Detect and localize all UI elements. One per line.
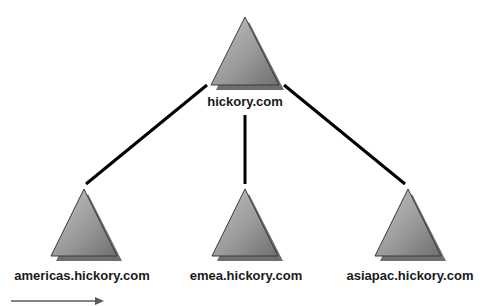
- domain-tree-diagram: hickory.comamericas.hickory.comemea.hick…: [0, 0, 490, 306]
- americas-domain-node: americas.hickory.com: [14, 189, 150, 283]
- asiapac-domain-node-label: asiapac.hickory.com: [347, 268, 474, 283]
- root-domain-node: hickory.com: [207, 17, 284, 109]
- domain-triangle-icon: [211, 17, 279, 85]
- americas-domain-node-label: americas.hickory.com: [14, 268, 150, 283]
- asiapac-domain-node: asiapac.hickory.com: [347, 189, 474, 283]
- arrow-head-icon: [95, 297, 104, 305]
- diagram-svg: hickory.comamericas.hickory.comemea.hick…: [0, 0, 490, 306]
- domain-triangle-icon: [375, 189, 441, 256]
- domain-triangle-icon: [212, 189, 278, 256]
- root-domain-node-label: hickory.com: [207, 94, 283, 109]
- domain-triangle-icon: [51, 189, 117, 256]
- emea-domain-node: emea.hickory.com: [190, 189, 302, 283]
- connector-line: [284, 85, 405, 184]
- emea-domain-node-label: emea.hickory.com: [190, 268, 302, 283]
- legend-arrow: [11, 297, 104, 305]
- connector-line: [86, 85, 207, 184]
